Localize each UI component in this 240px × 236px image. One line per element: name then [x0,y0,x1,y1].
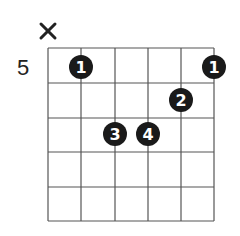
mute-x-icon [41,24,55,38]
finger-number: 1 [208,58,219,77]
finger-dot: 4 [136,122,160,146]
finger-dot: 2 [169,88,193,112]
finger-number: 1 [75,58,86,77]
start-fret-label: 5 [17,55,29,80]
finger-number: 3 [109,125,120,144]
finger-number: 2 [175,91,186,110]
finger-dot: 1 [202,55,226,79]
finger-number: 4 [142,125,153,144]
finger-dot: 3 [103,122,127,146]
finger-dot: 1 [69,55,93,79]
chord-diagram: 5 1 1 2 3 4 [0,0,240,236]
